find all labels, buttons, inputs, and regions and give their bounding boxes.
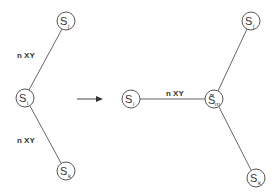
svg-text:j: j [252,23,254,29]
node-s-j: S j [242,12,260,30]
node-s-tilde-m: S̃ m [205,90,223,108]
edge-m-k [219,107,251,170]
svg-text:S: S [19,92,26,104]
svg-text:S: S [60,165,67,177]
edge-label-upper: n XY [17,51,35,60]
node-s-k: S k [57,162,75,180]
edge-label-merged: n XY [166,89,184,98]
before-diagram: n XY n XY S j S i S k [16,12,75,180]
tree-transformation-diagram: n XY n XY S j S i S k n XY S i [0,0,277,193]
svg-text:i: i [133,101,134,107]
svg-text:S: S [125,93,132,105]
svg-text:m: m [215,101,220,107]
edge-i-k [30,106,61,163]
svg-text:S: S [60,15,67,27]
edge-label-lower: n XY [17,136,35,145]
after-diagram: n XY S i S̃ m S j S k [122,12,265,187]
node-s-j: S j [57,12,75,30]
node-s-i: S i [16,89,34,107]
svg-text:S: S [245,15,252,27]
node-s-i: S i [122,90,140,108]
svg-text:S: S [250,172,257,184]
svg-text:j: j [67,23,69,29]
node-s-k: S k [247,169,265,187]
edge-m-j [218,29,247,91]
right-arrow-icon [77,96,103,102]
svg-text:i: i [27,100,28,106]
